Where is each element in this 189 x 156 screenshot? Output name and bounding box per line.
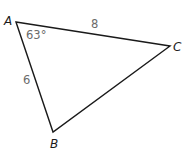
vertex-label-a: A xyxy=(3,14,12,28)
triangle-diagram: A B C 8 6 63° xyxy=(0,0,189,156)
side-label-ab: 6 xyxy=(23,73,30,87)
vertex-label-b: B xyxy=(50,137,58,151)
vertex-label-c: C xyxy=(173,40,182,54)
angle-label-a: 63° xyxy=(26,28,46,42)
side-label-ac: 8 xyxy=(91,17,98,31)
